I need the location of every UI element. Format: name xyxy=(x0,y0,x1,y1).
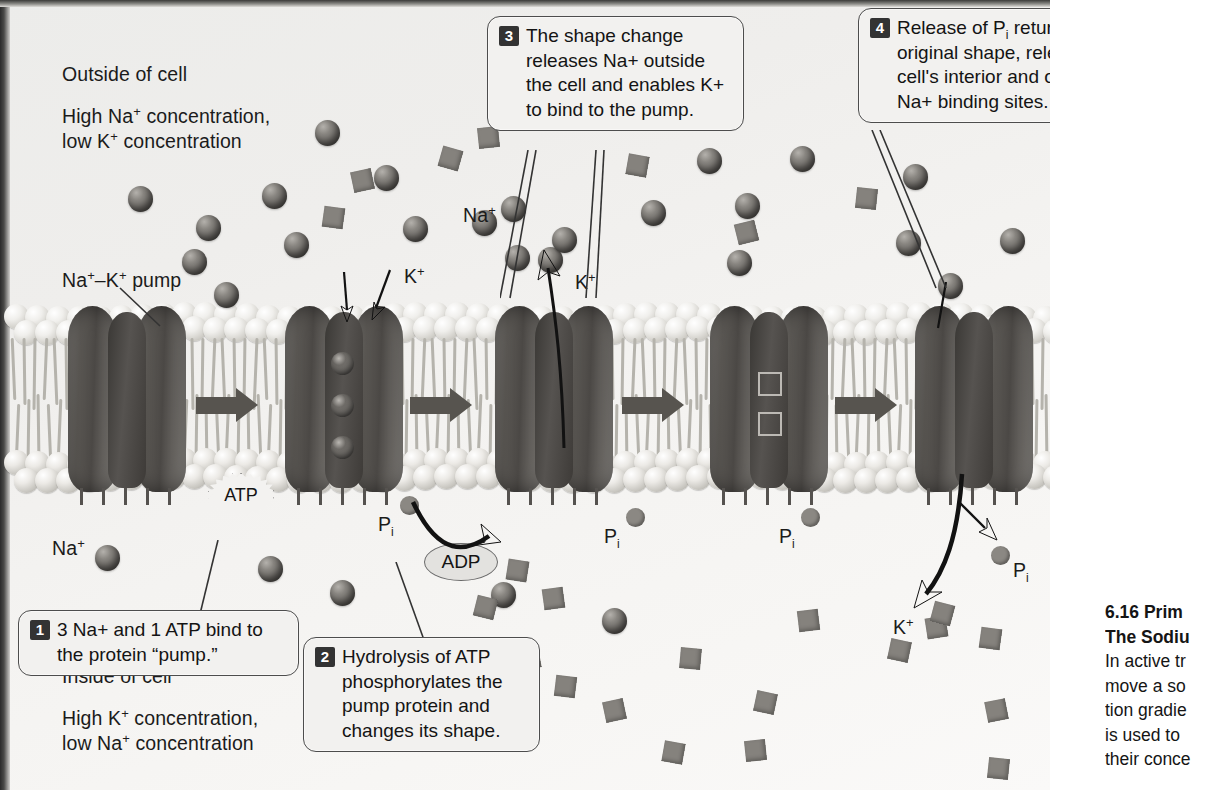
pump-anchor-foot xyxy=(168,488,171,505)
bound-sodium-ion xyxy=(331,436,354,459)
sodium-ion xyxy=(182,249,207,275)
lipid-tail xyxy=(11,338,17,400)
caption-body-line-2: move a so xyxy=(1105,674,1209,699)
pump-anchor-foot xyxy=(146,488,149,505)
pi-label-2: Pi xyxy=(604,524,620,549)
callout-step-2[interactable]: 2Hydrolysis of ATPphosphorylates thepump… xyxy=(303,637,540,752)
sodium-ion xyxy=(315,120,340,146)
bound-potassium-ion xyxy=(758,372,782,396)
pi-dot-3 xyxy=(801,508,820,527)
bound-sodium-ion xyxy=(331,394,354,417)
k-plus-outside-left-label: K+ xyxy=(404,264,425,289)
pump-protein-stage-1 xyxy=(68,306,186,492)
lipid-tail xyxy=(694,338,698,410)
callout-3-leader-lines xyxy=(500,150,630,300)
k-plus-inside-label: K+ xyxy=(893,615,914,640)
pump-anchor-foot xyxy=(297,488,300,505)
lipid-tail xyxy=(190,338,194,410)
potassium-ion xyxy=(744,739,767,762)
potassium-ion xyxy=(734,220,759,245)
callout-2-leader-line xyxy=(392,562,438,642)
pump-anchor-foot xyxy=(319,488,322,505)
pump-anchor-foot xyxy=(573,488,576,505)
pump-protein-stage-5 xyxy=(915,306,1033,492)
arrow-shaft xyxy=(196,397,238,414)
potassium-ion xyxy=(322,206,346,230)
callout-4-leader-lines xyxy=(866,130,996,290)
pi-dot-2 xyxy=(626,508,645,527)
pump-anchor-foot xyxy=(595,488,598,505)
callout-step-3-text: The shape changereleases Na+ outsidethe … xyxy=(526,24,724,122)
callout-step-4[interactable]: 4Release of Pi returns the pump to itsor… xyxy=(858,8,1050,123)
lipid-tail xyxy=(22,338,26,405)
lipid-tail xyxy=(472,338,478,410)
sodium-ion xyxy=(128,186,153,212)
sodium-ion xyxy=(196,215,221,241)
step-badge-4: 4 xyxy=(870,18,890,38)
potassium-ion xyxy=(505,558,529,582)
sodium-ion xyxy=(95,545,120,571)
lipid-tail xyxy=(274,338,278,405)
potassium-ion xyxy=(542,587,566,611)
lipid-bilayer-membrane xyxy=(10,300,1050,500)
callout-step-3[interactable]: 3The shape changereleases Na+ outsidethe… xyxy=(487,16,744,131)
sodium-ion xyxy=(790,146,815,172)
potassium-bind-arrow-right xyxy=(368,268,402,324)
potassium-ion xyxy=(679,647,702,670)
step-badge-1: 1 xyxy=(30,620,50,640)
lipid-tail xyxy=(53,338,59,405)
pump-label-leader-line xyxy=(118,286,178,328)
callout-step-1[interactable]: 13 Na+ and 1 ATP bind tothe protein “pum… xyxy=(18,610,299,676)
sodium-ion xyxy=(602,608,627,634)
potassium-ion xyxy=(438,146,464,172)
stage-transition-arrow-3 xyxy=(622,388,684,422)
lipid-tail xyxy=(263,338,269,400)
pump-anchor-foot xyxy=(810,488,813,505)
pump-anchor-foot xyxy=(363,488,366,505)
sodium-ion xyxy=(1000,228,1025,254)
potassium-ion xyxy=(887,638,912,663)
bound-sodium-ion xyxy=(331,352,354,375)
potassium-ion xyxy=(979,627,1003,651)
potassium-ion xyxy=(473,595,498,620)
step-badge-2: 2 xyxy=(315,647,335,667)
adp-release-arrow xyxy=(405,480,515,560)
sodium-ion xyxy=(403,216,428,242)
pi-label-3: Pi xyxy=(779,524,795,549)
atp-label: ATP xyxy=(208,473,274,517)
pump-anchor-foot xyxy=(744,488,747,505)
na-plus-outside-label: Na+ xyxy=(463,203,496,228)
potassium-ion xyxy=(602,698,627,723)
arrow-head xyxy=(450,388,472,422)
potassium-ion xyxy=(984,698,1009,723)
callout-step-2-text: Hydrolysis of ATPphosphorylates thepump … xyxy=(342,645,503,743)
outside-of-cell-label: Outside of cell xyxy=(62,62,187,87)
caption-body-line-1: In active tr xyxy=(1105,649,1209,674)
pump-channel xyxy=(108,312,146,488)
stage-transition-arrow-1 xyxy=(196,388,258,422)
pump-anchor-foot xyxy=(529,488,532,505)
sodium-ion xyxy=(284,232,309,258)
potassium-ion xyxy=(753,690,778,715)
lipid-tail xyxy=(705,338,709,400)
caption-title-line-2: The Sodiu xyxy=(1105,625,1209,650)
bound-potassium-ion xyxy=(758,412,782,436)
stage-transition-arrow-2 xyxy=(410,388,472,422)
stage-transition-arrow-4 xyxy=(835,388,897,422)
callout-step-1-text: 3 Na+ and 1 ATP bind tothe protein “pump… xyxy=(57,618,263,667)
pi-release-arrow xyxy=(955,498,1005,552)
sodium-ion xyxy=(641,200,666,226)
arrow-head xyxy=(662,388,684,422)
potassium-bind-arrow-left xyxy=(336,270,364,324)
caption-body-line-3: tion gradie xyxy=(1105,698,1209,723)
pump-anchor-foot xyxy=(124,488,127,505)
sodium-ion xyxy=(214,282,239,308)
lipid-tail xyxy=(484,338,488,400)
lipid-tail xyxy=(42,338,48,400)
pump-anchor-foot xyxy=(722,488,725,505)
outside-concentration-label: High Na+ concentration,low K+ concentrat… xyxy=(62,104,270,154)
potassium-ion xyxy=(797,609,820,632)
potassium-ion xyxy=(350,168,375,193)
figure-root: Outside of cell High Na+ concentration,l… xyxy=(0,0,1209,806)
potassium-ion xyxy=(661,740,685,764)
